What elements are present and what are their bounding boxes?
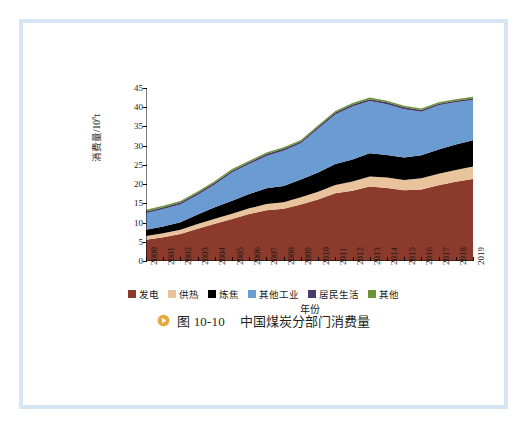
y-axis-tick-label: 40 <box>119 103 143 112</box>
y-axis-title-base: 消费量/10 <box>92 120 102 162</box>
x-axis-tick-label: 2016 <box>425 247 434 265</box>
x-axis-tick-label: 2005 <box>236 247 245 265</box>
x-axis-tick-mark <box>146 257 147 261</box>
legend-item-炼焦[interactable]: 炼焦 <box>208 287 239 301</box>
x-axis-tick-label: 2015 <box>408 247 417 265</box>
x-axis-tick-mark <box>456 257 457 261</box>
x-axis-tick-label: 2006 <box>253 247 262 265</box>
x-axis-tick-mark <box>335 257 336 261</box>
x-axis-tick-mark <box>301 257 302 261</box>
x-axis-tick-mark <box>404 257 405 261</box>
y-axis-tick-label: 35 <box>119 122 143 131</box>
x-axis-tick-mark <box>266 257 267 261</box>
x-axis-tick-mark <box>387 257 388 261</box>
x-axis-tick-label: 2019 <box>477 247 486 265</box>
legend-swatch-icon <box>208 290 216 298</box>
legend-swatch-icon <box>128 290 136 298</box>
y-axis-tick-label: 5 <box>119 237 143 246</box>
y-axis-tick-label: 0 <box>119 257 143 266</box>
x-axis-tick-label: 2017 <box>442 247 451 265</box>
x-axis-tick-label: 2011 <box>339 247 348 265</box>
y-axis-tick-label: 45 <box>119 84 143 93</box>
figure-caption: 图 10-10 中国煤炭分部门消费量 <box>19 311 508 330</box>
legend-item-其他[interactable]: 其他 <box>368 287 399 301</box>
legend-item-供热[interactable]: 供热 <box>168 287 199 301</box>
legend-item-其他工业[interactable]: 其他工业 <box>248 287 299 301</box>
x-axis-tick-label: 2014 <box>390 247 399 265</box>
x-axis-tick-label: 2008 <box>287 247 296 265</box>
x-axis-tick-label: 2013 <box>373 247 382 265</box>
legend-swatch-icon <box>248 290 256 298</box>
y-axis-title-unit: t <box>92 114 102 117</box>
legend-swatch-icon <box>168 290 176 298</box>
figure-container: 消费量/108t 051015202530354045 200020012002… <box>19 19 508 409</box>
legend-label: 居民生活 <box>319 287 359 301</box>
legend-label: 炼焦 <box>219 287 239 301</box>
play-circle-icon <box>157 314 170 327</box>
caption-number: 图 10-10 <box>177 311 225 330</box>
y-axis-tick-label: 15 <box>119 199 143 208</box>
y-axis-tick-label: 20 <box>119 180 143 189</box>
x-axis-tick-mark <box>198 257 199 261</box>
x-axis-tick-label: 2003 <box>201 247 210 265</box>
y-axis-title: 消费量/108t <box>89 93 103 183</box>
figure-page: 消费量/108t 051015202530354045 200020012002… <box>0 0 527 428</box>
x-axis-tick-mark <box>215 257 216 261</box>
x-axis-tick-label: 2001 <box>167 247 176 265</box>
y-axis-tick-label: 25 <box>119 160 143 169</box>
x-axis-tick-mark <box>249 257 250 261</box>
legend-swatch-icon <box>308 290 316 298</box>
x-axis-tick-label: 2010 <box>322 247 331 265</box>
y-axis-tick-label: 10 <box>119 218 143 227</box>
legend-item-居民生活[interactable]: 居民生活 <box>308 287 359 301</box>
legend-item-发电[interactable]: 发电 <box>128 287 159 301</box>
chart-area: 消费量/108t 051015202530354045 200020012002… <box>55 69 475 284</box>
x-axis-tick-mark <box>370 257 371 261</box>
legend-label: 其他 <box>379 287 399 301</box>
x-axis-tick-label: 2007 <box>270 247 279 265</box>
x-axis-tick-mark <box>318 257 319 261</box>
y-axis-title-exponent: 8 <box>90 117 98 121</box>
y-axis-tick-label: 30 <box>119 141 143 150</box>
x-axis-tick-label: 2004 <box>218 247 227 265</box>
x-axis-tick-label: 2012 <box>356 247 365 265</box>
x-axis-tick-label: 2009 <box>304 247 313 265</box>
plot-area <box>146 88 473 261</box>
x-axis-tick-mark <box>353 257 354 261</box>
x-axis-tick-label: 2018 <box>459 247 468 265</box>
chart-legend: 发电供热炼焦其他工业居民生活其他 <box>19 287 508 301</box>
legend-label: 发电 <box>139 287 159 301</box>
x-axis-tick-mark <box>180 257 181 261</box>
y-axis-tick-labels: 051015202530354045 <box>113 88 143 261</box>
x-axis-tick-mark <box>232 257 233 261</box>
x-axis-tick-label: 2000 <box>150 247 159 265</box>
x-axis-tick-mark <box>284 257 285 261</box>
x-axis-tick-mark <box>421 257 422 261</box>
caption-text: 中国煤炭分部门消费量 <box>240 311 370 330</box>
legend-swatch-icon <box>368 290 376 298</box>
x-axis-tick-mark <box>163 257 164 261</box>
x-axis-tick-mark <box>473 257 474 261</box>
legend-label: 其他工业 <box>259 287 299 301</box>
x-axis-tick-label: 2002 <box>184 247 193 265</box>
stacked-area-chart <box>146 88 473 261</box>
legend-label: 供热 <box>179 287 199 301</box>
x-axis-tick-mark <box>439 257 440 261</box>
